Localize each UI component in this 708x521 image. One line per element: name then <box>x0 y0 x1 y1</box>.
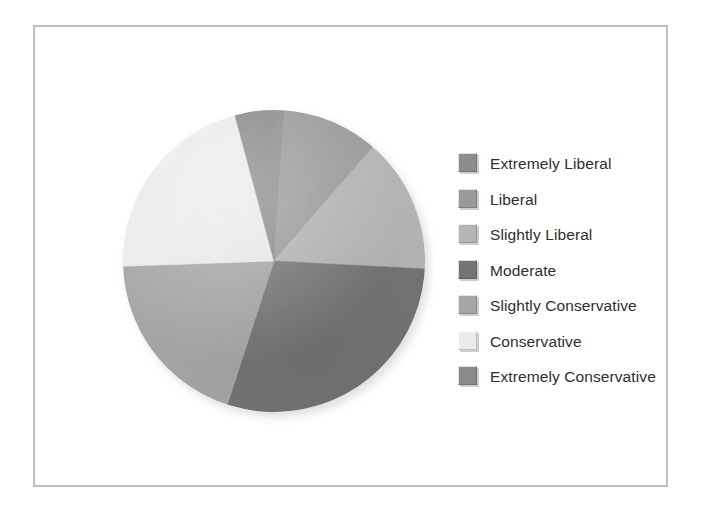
legend-item-conservative[interactable]: Conservative <box>458 324 688 360</box>
legend-label-slightly-conservative: Slightly Conservative <box>490 298 637 314</box>
legend-swatch-conservative <box>458 331 479 352</box>
scanned-page: Extremely Liberal Liberal Slightly Liber… <box>0 0 708 521</box>
legend-swatch-liberal <box>458 189 479 210</box>
legend-label-liberal: Liberal <box>490 192 537 208</box>
legend-swatch-slightly-conservative <box>458 295 479 316</box>
figure-frame: Extremely Liberal Liberal Slightly Liber… <box>33 25 668 487</box>
legend-label-conservative: Conservative <box>490 334 582 350</box>
legend-swatch-slightly-liberal <box>458 224 479 245</box>
legend-swatch-extremely-liberal <box>458 153 479 174</box>
legend-label-extremely-conservative: Extremely Conservative <box>490 369 656 385</box>
legend-item-slightly-conservative[interactable]: Slightly Conservative <box>458 288 688 324</box>
legend-label-slightly-liberal: Slightly Liberal <box>490 227 592 243</box>
legend: Extremely Liberal Liberal Slightly Liber… <box>458 146 688 395</box>
legend-label-moderate: Moderate <box>490 263 556 279</box>
legend-item-moderate[interactable]: Moderate <box>458 253 688 289</box>
legend-label-extremely-liberal: Extremely Liberal <box>490 156 611 172</box>
legend-item-extremely-liberal[interactable]: Extremely Liberal <box>458 146 688 182</box>
legend-item-slightly-liberal[interactable]: Slightly Liberal <box>458 217 688 253</box>
legend-item-extremely-conservative[interactable]: Extremely Conservative <box>458 359 688 395</box>
legend-item-liberal[interactable]: Liberal <box>458 182 688 218</box>
pie-slices-svg <box>123 110 425 412</box>
legend-swatch-moderate <box>458 260 479 281</box>
legend-swatch-extremely-conservative <box>458 366 479 387</box>
pie-disc <box>123 110 425 412</box>
pie-chart <box>123 110 433 420</box>
